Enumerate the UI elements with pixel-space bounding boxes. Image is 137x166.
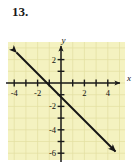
coordinate-plane-graph: -4 -2 2 4 2 -2 -4 -6 x y — [0, 0, 137, 166]
x-tick-label-neg4: -4 — [11, 88, 19, 98]
figure-container: 13. — [0, 0, 137, 166]
x-axis-label: x — [126, 73, 131, 83]
x-tick-label-2: 2 — [82, 88, 86, 98]
x-tick-label-4: 4 — [106, 88, 111, 98]
y-tick-label-neg4: -4 — [49, 125, 57, 135]
y-tick-label-neg6: -6 — [49, 148, 56, 158]
graph-svg: -4 -2 2 4 2 -2 -4 -6 x y — [0, 0, 137, 166]
x-tick-label-neg2: -2 — [34, 88, 41, 98]
y-axis-label: y — [61, 35, 66, 45]
y-tick-label-2: 2 — [52, 55, 56, 65]
y-tick-label-neg2: -2 — [49, 101, 56, 111]
